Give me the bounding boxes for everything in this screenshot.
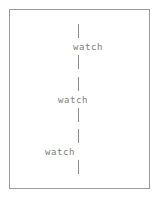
connector-tick-below-2	[78, 108, 79, 122]
diagram-frame: watch watch watch	[9, 9, 150, 189]
node-label-2: watch	[58, 95, 88, 105]
node-label-1: watch	[73, 42, 103, 52]
diagram-canvas: watch watch watch	[0, 0, 159, 199]
connector-tick-below-3	[78, 160, 79, 174]
node-label-3: watch	[45, 147, 75, 157]
connector-tick-above-1	[78, 24, 79, 38]
connector-tick-below-1	[78, 55, 79, 69]
connector-tick-above-2	[78, 77, 79, 91]
connector-tick-above-3	[78, 129, 79, 143]
